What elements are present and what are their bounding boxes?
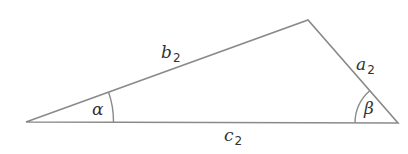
side-c-subscript: 2 bbox=[235, 134, 243, 148]
alpha-angle-arc bbox=[109, 92, 114, 122]
side-b-label: b2 bbox=[161, 44, 181, 64]
triangle-diagram: b2 a2 c2 α β bbox=[0, 0, 408, 154]
angle-alpha-label: α bbox=[92, 101, 103, 118]
side-b-subscript: 2 bbox=[173, 51, 181, 65]
triangle-figure bbox=[0, 0, 408, 154]
side-a-label: a2 bbox=[356, 56, 375, 76]
beta-symbol: β bbox=[364, 98, 374, 118]
alpha-symbol: α bbox=[92, 99, 103, 119]
side-c-label: c2 bbox=[224, 127, 242, 147]
side-a-letter: a bbox=[356, 54, 366, 74]
side-a-subscript: 2 bbox=[367, 63, 375, 77]
angle-beta-label: β bbox=[364, 100, 374, 117]
side-c-letter: c bbox=[224, 125, 234, 145]
side-b-letter: b bbox=[161, 42, 172, 62]
triangle-outline bbox=[26, 20, 398, 123]
